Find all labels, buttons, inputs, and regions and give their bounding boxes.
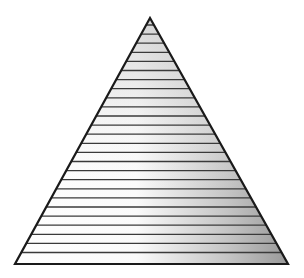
striped-triangle-figure bbox=[0, 0, 304, 278]
triangle-fill bbox=[0, 0, 304, 278]
diagram-canvas bbox=[0, 0, 304, 278]
